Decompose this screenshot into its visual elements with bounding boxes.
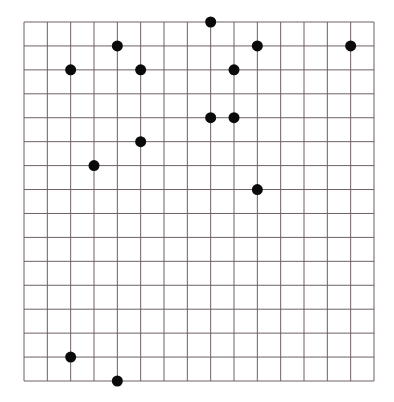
dot-grid-diagram	[0, 0, 394, 402]
grid-dot	[229, 112, 240, 123]
grid-dot	[345, 40, 356, 51]
grid-dot	[252, 184, 263, 195]
grid-dot	[135, 64, 146, 75]
grid-canvas	[0, 0, 394, 402]
grid-dot	[112, 376, 123, 387]
grid-lines	[24, 22, 374, 381]
grid-dot	[229, 64, 240, 75]
grid-dot	[135, 136, 146, 147]
grid-dot	[65, 64, 76, 75]
grid-dot	[205, 17, 216, 28]
grid-dot	[65, 352, 76, 363]
grid-dot	[205, 112, 216, 123]
grid-dot	[252, 40, 263, 51]
grid-dot	[112, 40, 123, 51]
grid-dot	[89, 160, 100, 171]
